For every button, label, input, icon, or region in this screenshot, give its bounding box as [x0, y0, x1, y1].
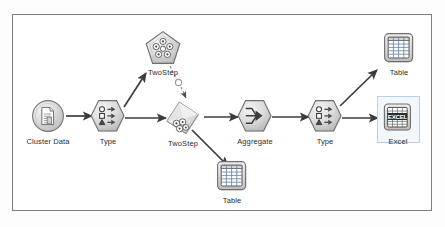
excel-icon: EXCEL — [381, 102, 415, 134]
node-label-excel: Excel — [389, 137, 408, 146]
node-label-aggregate: Aggregate — [237, 137, 273, 146]
node-label-table-top: Table — [390, 68, 408, 77]
node-label-twostep-nugget: TwoStep — [148, 68, 178, 77]
cluster-nugget-icon — [143, 29, 183, 67]
node-label-twostep-model: TwoStep — [168, 139, 198, 148]
node-label-cluster-data: Cluster Data — [27, 137, 70, 146]
type-icon — [306, 98, 344, 134]
modeler-canvas: Cluster Data — [0, 0, 445, 227]
svg-text:EXCEL: EXCEL — [388, 113, 408, 120]
node-label-table-bottom: Table — [223, 196, 241, 205]
table-grid-icon — [214, 159, 250, 193]
aggregate-icon — [236, 98, 274, 134]
table-grid-icon — [381, 31, 417, 65]
node-label-type-2: Type — [317, 137, 334, 146]
node-label-type-1: Type — [100, 137, 117, 146]
cluster-diamond-icon — [162, 98, 204, 138]
document-source-icon — [30, 98, 66, 134]
type-icon — [89, 98, 127, 134]
